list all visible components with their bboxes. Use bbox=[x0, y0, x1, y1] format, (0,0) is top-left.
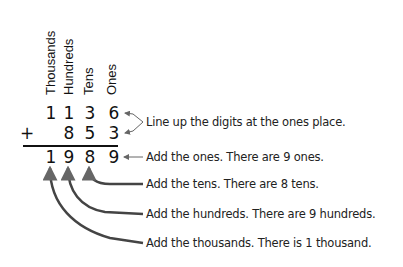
arrows-and-rule bbox=[0, 0, 403, 267]
note-ones: Add the ones. There are 9 ones. bbox=[146, 150, 324, 164]
note-tens: Add the tens. There are 8 tens. bbox=[146, 177, 319, 191]
hundreds-arrow bbox=[68, 168, 143, 214]
addition-diagram: Thousands Hundreds Tens Ones 1 1 3 6 + 8… bbox=[0, 0, 403, 267]
note-align: Line up the digits at the ones place. bbox=[146, 115, 346, 129]
align-arrow-top bbox=[125, 113, 143, 122]
align-arrow-bottom bbox=[125, 122, 143, 133]
note-hundreds: Add the hundreds. There are 9 hundreds. bbox=[146, 207, 375, 221]
tens-arrow bbox=[89, 168, 143, 184]
note-thousands: Add the thousands. There is 1 thousand. bbox=[146, 236, 372, 250]
thousands-arrow bbox=[50, 168, 143, 243]
